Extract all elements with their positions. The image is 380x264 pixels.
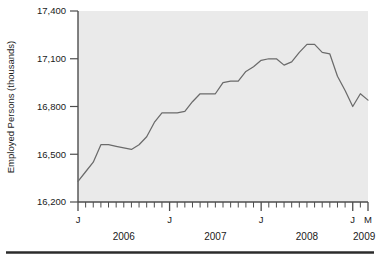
x-year-label-2008: 2008 — [296, 231, 319, 242]
y-tick-label-16200: 16,200 — [37, 196, 66, 207]
y-tick-label-17100: 17,100 — [37, 53, 66, 64]
x-year-label-2009: 2009 — [353, 231, 376, 242]
x-year-label-2007: 2007 — [204, 231, 227, 242]
x-axis-year-labels: 2006200720082009 — [113, 231, 376, 242]
y-axis-title: Employed Persons (thousands) — [5, 41, 16, 174]
x-axis-month-labels: JJJJM — [76, 214, 372, 225]
x-month-label-4: M — [364, 214, 372, 225]
x-month-label-1: J — [167, 214, 172, 225]
y-tick-label-16800: 16,800 — [37, 101, 66, 112]
y-axis-tick-labels: 16,20016,50016,80017,10017,400 — [37, 5, 66, 207]
chart-figure: 16,20016,50016,80017,10017,400 JJJJM 200… — [0, 0, 380, 264]
employed-persons-line-chart: 16,20016,50016,80017,10017,400 JJJJM 200… — [0, 0, 380, 264]
x-month-label-2: J — [259, 214, 264, 225]
y-axis-ticks — [70, 11, 78, 202]
x-year-label-2006: 2006 — [113, 231, 136, 242]
x-month-label-3: J — [350, 214, 355, 225]
x-month-label-0: J — [76, 214, 81, 225]
y-tick-label-17400: 17,400 — [37, 5, 66, 16]
plot-area-background — [78, 11, 368, 202]
y-tick-label-16500: 16,500 — [37, 149, 66, 160]
x-axis-ticks — [78, 202, 368, 211]
